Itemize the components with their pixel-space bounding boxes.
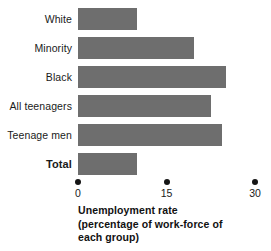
category-label-teenage-men: Teenage men (0, 124, 72, 146)
bar-teenage-men (78, 124, 222, 146)
x-axis-tick-15: 15 (147, 178, 187, 199)
x-axis-tick-30: 30 (235, 178, 271, 199)
x-axis-tick-label: 0 (58, 187, 98, 199)
plot-area: White Minority Black All teenagers Teena… (0, 0, 271, 178)
bar-white (78, 8, 137, 30)
bar-black (78, 66, 226, 88)
x-axis-tick-0: 0 (58, 178, 98, 199)
category-label-minority: Minority (0, 37, 72, 59)
bar-track (78, 8, 271, 30)
tick-dot-icon (75, 179, 81, 185)
x-axis-title-line-1: Unemployment rate (78, 204, 268, 218)
table-row: Minority (0, 37, 271, 59)
category-label-white: White (0, 8, 72, 30)
x-axis-title-line-3: each group) (78, 231, 268, 245)
x-axis-title-line-2: (percentage of work-force of (78, 218, 268, 232)
bar-track (78, 153, 271, 175)
x-axis: 0 15 30 (0, 178, 271, 202)
x-axis-tick-label: 15 (147, 187, 187, 199)
table-row: White (0, 8, 271, 30)
table-row: All teenagers (0, 95, 271, 117)
tick-dot-icon (164, 179, 170, 185)
x-axis-tick-label: 30 (235, 187, 271, 199)
category-label-all-teenagers: All teenagers (0, 95, 72, 117)
table-row: Black (0, 66, 271, 88)
table-row: Teenage men (0, 124, 271, 146)
category-label-total: Total (0, 153, 72, 175)
tick-dot-icon (252, 179, 258, 185)
unemployment-rate-bar-chart: White Minority Black All teenagers Teena… (0, 0, 271, 251)
bar-minority (78, 37, 194, 59)
bar-track (78, 124, 271, 146)
category-label-black: Black (0, 66, 72, 88)
bar-track (78, 95, 271, 117)
bar-total (78, 153, 137, 175)
bar-all-teenagers (78, 95, 211, 117)
bar-track (78, 66, 271, 88)
table-row: Total (0, 153, 271, 175)
x-axis-title: Unemployment rate (percentage of work-fo… (78, 204, 268, 245)
bar-track (78, 37, 271, 59)
